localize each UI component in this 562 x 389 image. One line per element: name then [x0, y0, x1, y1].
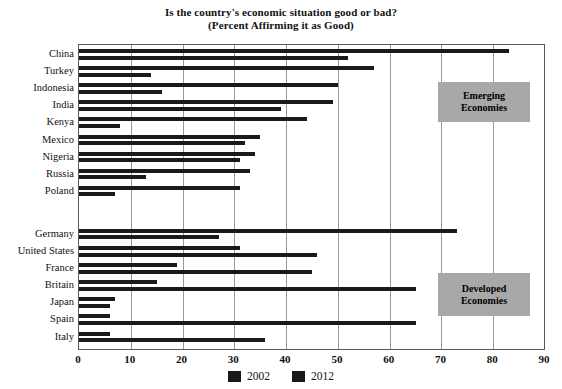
- category-label: France: [0, 262, 74, 273]
- bar-2002: [79, 229, 457, 233]
- gridline: [390, 45, 391, 349]
- bar-2012: [79, 338, 265, 342]
- bar-2012: [79, 158, 240, 162]
- gridline: [286, 45, 287, 349]
- legend-label: 2012: [311, 370, 334, 382]
- x-tick-label: 60: [383, 353, 394, 365]
- bar-2012: [79, 175, 146, 179]
- gridline: [338, 45, 339, 349]
- gridline: [183, 45, 184, 349]
- plot-area: EmergingEconomiesDevelopedEconomies: [78, 44, 545, 350]
- category-label: Russia: [0, 168, 74, 179]
- legend-swatch-icon: [292, 371, 305, 382]
- chart-legend: 20022012: [0, 370, 562, 382]
- group-annotation-line2: Economies: [461, 295, 507, 307]
- group-annotation-line2: Economies: [461, 102, 507, 114]
- bar-2012: [79, 192, 115, 196]
- category-label: India: [0, 99, 74, 110]
- x-tick-label: 0: [75, 353, 81, 365]
- legend-label: 2002: [247, 370, 270, 382]
- bar-2012: [79, 56, 348, 60]
- category-label: Germany: [0, 228, 74, 239]
- category-label: China: [0, 48, 74, 59]
- bar-2002: [79, 332, 110, 336]
- chart-subtitle: (Percent Affirming it as Good): [0, 19, 562, 32]
- bar-2002: [79, 152, 255, 156]
- chart-title: Is the country's economic situation good…: [0, 6, 562, 19]
- category-label: Britain: [0, 279, 74, 290]
- bar-2012: [79, 124, 120, 128]
- group-annotation-box: EmergingEconomies: [438, 82, 530, 122]
- group-annotation-line1: Emerging: [463, 90, 505, 102]
- category-label: Poland: [0, 185, 74, 196]
- gridline: [234, 45, 235, 349]
- bar-2002: [79, 297, 115, 301]
- bar-2002: [79, 49, 509, 53]
- bar-2002: [79, 186, 240, 190]
- chart-container: Is the country's economic situation good…: [0, 0, 562, 389]
- bar-2002: [79, 117, 307, 121]
- bar-2012: [79, 321, 416, 325]
- bar-2012: [79, 253, 317, 257]
- bar-2002: [79, 83, 338, 87]
- legend-item: 2012: [292, 370, 334, 382]
- bar-2002: [79, 314, 110, 318]
- bar-2002: [79, 100, 333, 104]
- bar-2012: [79, 107, 281, 111]
- category-label: Kenya: [0, 116, 74, 127]
- x-tick-label: 70: [435, 353, 446, 365]
- category-label: Nigeria: [0, 151, 74, 162]
- x-tick-label: 80: [487, 353, 498, 365]
- category-label: Turkey: [0, 65, 74, 76]
- x-tick-label: 20: [176, 353, 187, 365]
- category-label: Indonesia: [0, 82, 74, 93]
- x-tick-label: 40: [280, 353, 291, 365]
- bar-2002: [79, 263, 177, 267]
- bar-2002: [79, 169, 250, 173]
- x-axis-tick-labels: 0102030405060708090: [0, 353, 562, 369]
- bar-2012: [79, 304, 110, 308]
- bar-2002: [79, 246, 240, 250]
- category-label: Japan: [0, 296, 74, 307]
- bar-2002: [79, 280, 157, 284]
- category-axis-labels: ChinaTurkeyIndonesiaIndiaKenyaMexicoNige…: [0, 44, 74, 350]
- bar-2012: [79, 287, 416, 291]
- bar-2012: [79, 141, 245, 145]
- bar-2002: [79, 66, 374, 70]
- x-tick-label: 30: [228, 353, 239, 365]
- category-label: United States: [0, 245, 74, 256]
- category-label: Mexico: [0, 134, 74, 145]
- group-annotation-line1: Developed: [462, 283, 506, 295]
- bar-2002: [79, 135, 260, 139]
- legend-item: 2002: [228, 370, 270, 382]
- bar-2012: [79, 235, 219, 239]
- category-label: Spain: [0, 313, 74, 324]
- chart-title-block: Is the country's economic situation good…: [0, 6, 562, 32]
- legend-swatch-icon: [228, 371, 241, 382]
- x-tick-label: 10: [124, 353, 135, 365]
- x-tick-label: 90: [539, 353, 550, 365]
- x-tick-label: 50: [331, 353, 342, 365]
- bar-2012: [79, 73, 151, 77]
- group-annotation-box: DevelopedEconomies: [438, 273, 530, 316]
- bar-2012: [79, 90, 162, 94]
- bar-2012: [79, 270, 312, 274]
- category-label: Italy: [0, 331, 74, 342]
